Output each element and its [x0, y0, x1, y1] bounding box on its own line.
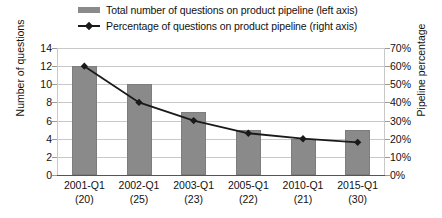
y-tickmark-left — [52, 157, 57, 158]
y-tickmark-right — [385, 121, 390, 122]
plot-area — [57, 48, 385, 175]
line-marker-2010-Q1 — [299, 135, 306, 142]
y-tick-right-40%: 40% — [390, 96, 411, 108]
chart-legend: Total number of questions on product pip… — [78, 3, 358, 33]
y-tickmark-right — [385, 84, 390, 85]
x-label-period: 2005-Q1 — [218, 178, 278, 192]
y-tickmark-left — [52, 84, 57, 85]
legend-label-line: Percentage of questions on product pipel… — [106, 20, 357, 32]
x-label-period: 2003-Q1 — [164, 178, 224, 192]
x-label-period: 2001-Q1 — [54, 178, 114, 192]
y-tick-right-30%: 30% — [390, 115, 411, 127]
y-axis-left-ticks: 02468101214 — [22, 48, 52, 175]
y-tickmark-right — [385, 139, 390, 140]
legend-label-bars: Total number of questions on product pip… — [106, 4, 358, 16]
line-path — [84, 66, 357, 142]
y-tick-left-12: 12 — [22, 60, 52, 72]
x-label-period: 2010-Q1 — [273, 178, 333, 192]
chart-container: Total number of questions on product pip… — [0, 0, 442, 218]
y-tick-left-8: 8 — [22, 96, 52, 108]
y-tick-right-50%: 50% — [390, 78, 411, 90]
y-tick-left-2: 2 — [22, 151, 52, 163]
x-label-count: (23) — [164, 192, 224, 206]
line-marker-2003-Q1 — [190, 117, 197, 124]
x-label-2015-Q1: 2015-Q1(30) — [328, 178, 388, 206]
x-label-2005-Q1: 2005-Q1(22) — [218, 178, 278, 206]
x-axis-labels: 2001-Q1(20)2002-Q1(25)2003-Q1(23)2005-Q1… — [57, 178, 385, 214]
x-label-count: (25) — [109, 192, 169, 206]
y-tickmark-right — [385, 48, 390, 49]
y-tick-left-4: 4 — [22, 133, 52, 145]
x-label-2002-Q1: 2002-Q1(25) — [109, 178, 169, 206]
y-tickmark-right — [385, 175, 390, 176]
y-tickmark-left — [52, 66, 57, 67]
gridline — [57, 175, 385, 176]
y-tickmark-left — [52, 121, 57, 122]
legend-line-marker-icon — [78, 21, 100, 31]
x-label-period: 2015-Q1 — [328, 178, 388, 192]
x-label-count: (20) — [54, 192, 114, 206]
y-tick-left-10: 10 — [22, 78, 52, 90]
y-tick-right-70%: 70% — [390, 42, 411, 54]
y-tickmark-left — [52, 175, 57, 176]
legend-item-bars: Total number of questions on product pip… — [78, 3, 358, 17]
line-series — [57, 48, 385, 175]
y-axis-right-ticks: 0%10%20%30%40%50%60%70% — [390, 48, 424, 175]
y-tick-right-10%: 10% — [390, 151, 411, 163]
x-label-count: (30) — [328, 192, 388, 206]
x-label-period: 2002-Q1 — [109, 178, 169, 192]
y-tick-left-6: 6 — [22, 115, 52, 127]
x-label-2001-Q1: 2001-Q1(20) — [54, 178, 114, 206]
legend-item-line: Percentage of questions on product pipel… — [78, 19, 358, 33]
y-tick-left-0: 0 — [22, 169, 52, 181]
y-tickmark-right — [385, 102, 390, 103]
y-tickmark-right — [385, 157, 390, 158]
y-tick-right-60%: 60% — [390, 60, 411, 72]
y-tick-right-0%: 0% — [390, 169, 405, 181]
y-tick-left-14: 14 — [22, 42, 52, 54]
y-tickmark-left — [52, 139, 57, 140]
y-tickmark-left — [52, 102, 57, 103]
y-tickmark-right — [385, 66, 390, 67]
y-tick-right-20%: 20% — [390, 133, 411, 145]
x-label-2010-Q1: 2010-Q1(21) — [273, 178, 333, 206]
x-label-2003-Q1: 2003-Q1(23) — [164, 178, 224, 206]
y-tickmark-left — [52, 48, 57, 49]
x-label-count: (22) — [218, 192, 278, 206]
line-marker-2005-Q1 — [245, 130, 252, 137]
legend-bar-swatch-icon — [78, 7, 100, 13]
line-marker-2015-Q1 — [354, 139, 361, 146]
x-label-count: (21) — [273, 192, 333, 206]
